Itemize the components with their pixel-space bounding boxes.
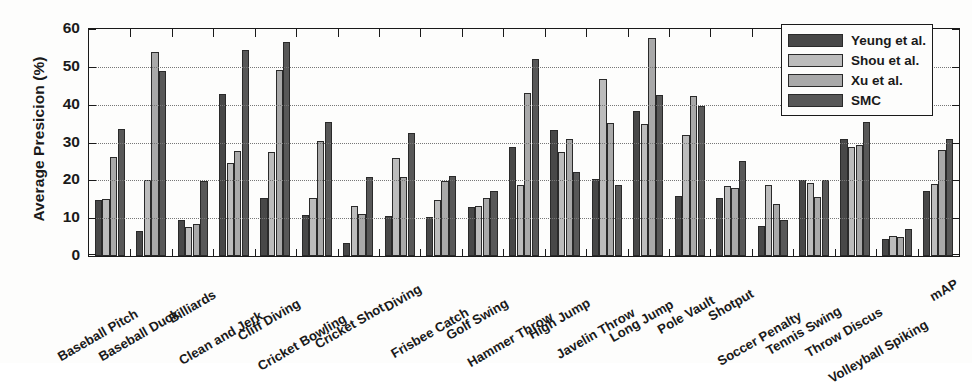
x-tick-mark <box>545 249 546 256</box>
legend-item-1[interactable]: Shou et al. <box>788 50 926 70</box>
y-tick-mark <box>952 143 959 144</box>
y-tick-label: 0 <box>40 246 80 264</box>
x-tick-mark <box>420 249 421 256</box>
bar <box>343 243 350 256</box>
x-axis-labels: Baseball PitchBaseball DuckBilliardsClea… <box>88 257 960 363</box>
x-tick-mark <box>213 249 214 256</box>
x-tick-mark <box>379 249 380 256</box>
bar <box>400 177 407 256</box>
legend-label-2: Xu et al. <box>851 73 903 88</box>
y-tick-mark <box>89 105 96 106</box>
legend-item-0[interactable]: Yeung et al. <box>788 30 926 50</box>
bar <box>268 152 275 256</box>
bar <box>136 231 143 256</box>
x-tick-mark <box>462 29 463 37</box>
bar <box>283 42 290 257</box>
x-tick-mark <box>503 29 504 37</box>
bar <box>682 135 689 256</box>
bar <box>532 59 539 256</box>
bar <box>780 220 787 256</box>
x-tick-mark <box>876 249 877 256</box>
x-tick-mark <box>130 249 131 256</box>
bar <box>193 224 200 256</box>
bar <box>276 70 283 256</box>
gridline <box>89 180 959 181</box>
x-tick-mark <box>586 249 587 256</box>
bar <box>573 172 580 256</box>
x-tick-mark <box>420 29 421 37</box>
x-tick-mark <box>793 249 794 256</box>
y-tick-mark <box>89 67 96 68</box>
bar <box>856 145 863 256</box>
x-tick-mark <box>918 249 919 256</box>
bar <box>351 206 358 256</box>
bar <box>490 191 497 256</box>
legend-label-1: Shou et al. <box>851 53 919 68</box>
bar <box>517 185 524 256</box>
legend-item-2[interactable]: Xu et al. <box>788 70 926 90</box>
x-axis-label: mAP <box>927 276 961 304</box>
y-tick-label: 10 <box>40 208 80 226</box>
x-tick-mark <box>503 249 504 256</box>
bar <box>317 141 324 256</box>
bar <box>366 177 373 256</box>
x-tick-mark <box>130 29 131 37</box>
x-tick-mark <box>586 29 587 37</box>
bar <box>426 217 433 256</box>
x-tick-mark <box>338 29 339 37</box>
bar <box>931 184 938 256</box>
bar <box>468 207 475 256</box>
bar <box>690 96 697 256</box>
bar <box>227 163 234 256</box>
bar <box>509 147 516 256</box>
x-tick-mark <box>752 249 753 256</box>
y-tick-mark <box>89 143 96 144</box>
bar <box>151 52 158 256</box>
bar <box>392 158 399 256</box>
bar <box>641 124 648 256</box>
bar <box>358 214 365 256</box>
x-tick-mark <box>752 29 753 37</box>
bar <box>524 93 531 256</box>
bar <box>309 198 316 256</box>
bar <box>475 206 482 256</box>
bar <box>242 50 249 256</box>
x-tick-mark <box>710 249 711 256</box>
x-tick-mark <box>628 249 629 256</box>
bar <box>923 191 930 256</box>
bar <box>483 198 490 256</box>
x-axis-label: Diving <box>381 281 423 314</box>
y-tick-mark <box>89 218 96 219</box>
bar <box>102 199 109 256</box>
y-tick-mark <box>952 254 959 255</box>
x-tick-mark <box>296 29 297 37</box>
bar <box>889 236 896 256</box>
gridline <box>89 143 959 144</box>
y-tick-mark <box>89 254 96 255</box>
bar <box>260 198 267 256</box>
x-tick-mark <box>338 249 339 256</box>
legend-item-3[interactable]: SMC <box>788 90 926 110</box>
bar <box>938 150 945 256</box>
x-tick-mark <box>669 249 670 256</box>
x-tick-mark <box>255 29 256 37</box>
y-tick-label: 40 <box>40 95 80 113</box>
bar <box>434 200 441 256</box>
bar <box>897 237 904 256</box>
x-tick-mark <box>296 249 297 256</box>
bar <box>946 139 953 256</box>
bar <box>159 71 166 256</box>
bar <box>905 229 912 256</box>
y-tick-mark <box>89 29 96 30</box>
bar <box>731 188 738 256</box>
y-tick-mark <box>952 105 959 106</box>
x-tick-mark <box>628 29 629 37</box>
bar <box>675 196 682 256</box>
bar <box>385 216 392 256</box>
bar <box>840 139 847 256</box>
bar <box>219 94 226 256</box>
y-tick-mark <box>952 180 959 181</box>
bar <box>739 161 746 256</box>
x-tick-mark <box>669 29 670 37</box>
bar <box>234 151 241 256</box>
